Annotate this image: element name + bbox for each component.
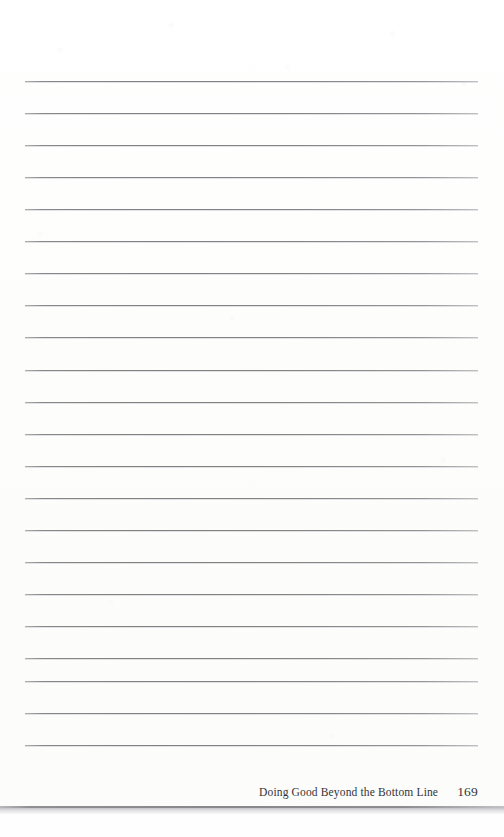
footer-page-number: 169 <box>457 784 478 800</box>
rule-line <box>25 337 478 338</box>
rule-line <box>25 530 478 531</box>
rule-line <box>25 177 478 178</box>
page-edge-shadow <box>0 805 504 814</box>
rule-line <box>25 209 478 210</box>
rule-line <box>25 145 478 146</box>
rule-line <box>25 626 478 627</box>
rule-line <box>25 402 478 403</box>
page-footer: Doing Good Beyond the Bottom Line 169 <box>0 784 478 804</box>
footer-chapter-title: Doing Good Beyond the Bottom Line <box>259 786 438 798</box>
rule-line <box>25 681 478 682</box>
rule-line <box>25 370 478 371</box>
rule-line <box>25 745 478 746</box>
below-page-edge-area <box>0 814 504 837</box>
scanned-page: Doing Good Beyond the Bottom Line 169 <box>0 0 504 837</box>
rule-line <box>25 81 478 82</box>
rule-line <box>25 241 478 242</box>
rule-line <box>25 498 478 499</box>
rule-line <box>25 305 478 306</box>
rule-line <box>25 713 478 714</box>
rule-line <box>25 273 478 274</box>
rule-line <box>25 434 478 435</box>
rule-line <box>25 466 478 467</box>
ruled-lines-area <box>0 0 504 837</box>
rule-line <box>25 658 478 659</box>
rule-line <box>25 562 478 563</box>
rule-line <box>25 113 478 114</box>
rule-line <box>25 594 478 595</box>
